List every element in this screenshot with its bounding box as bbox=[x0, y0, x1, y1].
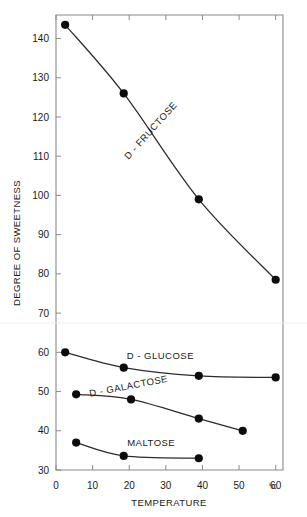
data-point bbox=[120, 364, 128, 372]
x-tick-label: 30 bbox=[160, 480, 172, 491]
data-point bbox=[195, 195, 203, 203]
sweetness-vs-temperature-chart: 0102030405060 30405060708090100110120130… bbox=[0, 0, 307, 517]
y-axis-title: DEGREE OF SWEETNESS bbox=[11, 180, 22, 306]
y-tick-label: 120 bbox=[32, 112, 49, 123]
data-point bbox=[272, 373, 280, 381]
y-tick-label: 90 bbox=[38, 229, 50, 240]
data-point bbox=[195, 372, 203, 380]
x-tick-label: 0 bbox=[53, 480, 59, 491]
y-tick-label: 40 bbox=[38, 425, 50, 436]
data-point bbox=[61, 21, 69, 29]
y-tick-label: 30 bbox=[38, 465, 50, 476]
y-tick-label: 60 bbox=[38, 347, 50, 358]
data-point bbox=[120, 452, 128, 460]
x-axis-unit-label: °C bbox=[269, 482, 278, 491]
data-point bbox=[72, 390, 80, 398]
data-point bbox=[195, 415, 203, 423]
data-point bbox=[127, 395, 135, 403]
data-point bbox=[195, 454, 203, 462]
y-tick-label: 130 bbox=[32, 72, 49, 83]
x-tick-label: 10 bbox=[87, 480, 99, 491]
x-tick-label: 40 bbox=[197, 480, 209, 491]
y-tick-label: 110 bbox=[33, 151, 49, 162]
y-tick-label: 70 bbox=[38, 308, 50, 319]
x-tick-label: 50 bbox=[234, 480, 246, 491]
y-tick-label: 100 bbox=[32, 190, 49, 201]
series-label: MALTOSE bbox=[127, 437, 175, 448]
y-tick-label: 140 bbox=[32, 33, 49, 44]
y-tick-label: 50 bbox=[38, 386, 50, 397]
data-point bbox=[239, 427, 247, 435]
data-point bbox=[120, 89, 128, 97]
y-tick-label: 80 bbox=[38, 268, 50, 279]
data-point bbox=[61, 348, 69, 356]
data-point bbox=[272, 276, 280, 284]
data-point bbox=[72, 438, 80, 446]
series-label: D - GLUCOSE bbox=[127, 350, 194, 361]
x-tick-label: 20 bbox=[124, 480, 136, 491]
x-axis-title: TEMPERATURE bbox=[131, 497, 206, 508]
